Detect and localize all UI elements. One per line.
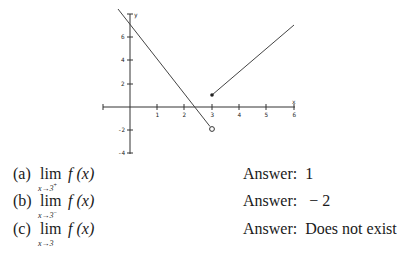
svg-text:1: 1: [156, 111, 160, 118]
svg-text:-4: -4: [118, 149, 126, 156]
part-label: (c): [13, 220, 31, 238]
svg-text:2: 2: [121, 80, 125, 87]
limit-subscript: x→3: [38, 237, 54, 248]
problem-a: (a) lim x→3+ f (x) Answer: 1: [0, 165, 393, 191]
closed-dot-marker: [210, 93, 214, 97]
part-label: (a): [13, 165, 31, 183]
limit-operator: lim: [40, 165, 61, 183]
svg-text:6: 6: [121, 33, 125, 40]
left-piece-line: [118, 9, 210, 127]
function-expression: f (x): [68, 165, 94, 183]
svg-text:6: 6: [293, 111, 297, 118]
answer-text: Answer: Does not exist: [243, 220, 397, 238]
open-circle-marker: [210, 127, 215, 132]
x-axis-label: x: [292, 98, 296, 105]
svg-text:-2: -2: [118, 126, 126, 133]
limit-subscript: x→3−: [38, 209, 57, 220]
svg-text:5: 5: [265, 111, 269, 118]
problem-c: (c) lim x→3 f (x) Answer: Does not exist: [0, 220, 393, 246]
function-expression: f (x): [68, 192, 94, 210]
limit-operator: lim: [40, 192, 61, 210]
function-expression: f (x): [68, 220, 94, 238]
part-label: (b): [13, 192, 32, 210]
answer-text: Answer: − 2: [243, 192, 330, 210]
y-axis-label: y: [134, 11, 138, 19]
y-tick-labels: 6 4 2 -2 -4: [118, 33, 126, 156]
answer-text: Answer: 1: [243, 165, 313, 183]
svg-text:3: 3: [211, 111, 215, 118]
problem-b: (b) lim x→3− f (x) Answer: − 2: [0, 192, 393, 218]
svg-text:4: 4: [121, 56, 125, 63]
limit-operator: lim: [40, 220, 61, 238]
right-piece-line: [212, 25, 294, 95]
x-tick-labels: 1 2 3 4 5 6: [156, 111, 297, 118]
svg-text:2: 2: [183, 111, 187, 118]
svg-text:4: 4: [238, 111, 242, 118]
function-graph: 1 2 3 4 5 6 6 4 2 -2 -4 y x: [0, 0, 393, 160]
